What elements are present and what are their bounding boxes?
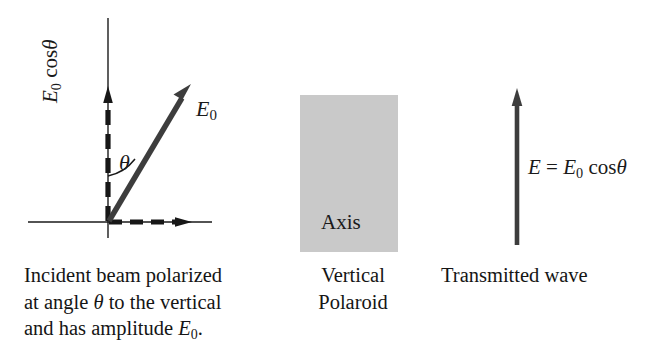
caption-incident-E-subscript: 0 xyxy=(191,327,198,342)
caption-incident-beam: Incident beam polarized at angle θ to th… xyxy=(24,262,222,344)
arrow-up-icon xyxy=(103,86,113,103)
caption-transmitted-wave: Transmitted wave xyxy=(441,262,588,289)
caption-incident-line-2b: to the vertical xyxy=(104,291,222,313)
e0-cos-theta-theta: θ xyxy=(38,39,62,49)
caption-polaroid-line-2: Polaroid xyxy=(308,289,398,316)
transmitted-eq-equals: = xyxy=(541,155,563,179)
e0-cos-theta-label-inner: E0 cosθ xyxy=(38,39,65,103)
transmitted-vector-arrowhead xyxy=(512,88,523,106)
transmitted-eq-E0: E xyxy=(563,155,576,179)
e0-vector-label: E0 xyxy=(196,96,217,125)
caption-incident-line-3: and has amplitude E0. xyxy=(24,315,222,344)
e0-cos-theta-E: E xyxy=(38,90,62,103)
transmitted-eq-E: E xyxy=(528,155,541,179)
transmitted-eq-cos: cos xyxy=(583,155,616,179)
caption-incident-E: E xyxy=(178,317,191,339)
e0-cos-theta-cos: cos xyxy=(38,50,62,83)
angle-theta-label: θ xyxy=(119,150,130,176)
physics-figure: E0 E0 cosθ θ Axis E = E0 cosθ Incident b… xyxy=(0,0,655,352)
arrow-right-icon xyxy=(175,217,192,226)
caption-vertical-polaroid: Vertical Polaroid xyxy=(308,262,398,315)
caption-polaroid-line-1: Vertical xyxy=(308,262,398,289)
transmitted-equation-label: E = E0 cosθ xyxy=(528,155,627,182)
transmitted-wave-vector xyxy=(512,88,523,245)
caption-incident-period: . xyxy=(198,317,203,339)
polaroid-axis-label: Axis xyxy=(321,210,361,235)
e0-cos-theta-subscript: 0 xyxy=(48,83,64,90)
caption-incident-line-3a: and has amplitude xyxy=(24,317,178,339)
caption-incident-line-2: at angle θ to the vertical xyxy=(24,289,222,316)
transmitted-eq-theta: θ xyxy=(616,155,626,179)
caption-incident-theta: θ xyxy=(93,291,103,313)
e0-cos-theta-label: E0 cosθ xyxy=(38,0,65,103)
caption-incident-line-1: Incident beam polarized xyxy=(24,262,222,289)
e0-vector-arrowhead xyxy=(174,84,192,100)
e0-vector-label-letter: E xyxy=(196,96,209,121)
caption-incident-line-2a: at angle xyxy=(24,291,93,313)
caption-transmitted-line-1: Transmitted wave xyxy=(441,262,588,289)
e0-vector-label-subscript: 0 xyxy=(209,107,216,123)
